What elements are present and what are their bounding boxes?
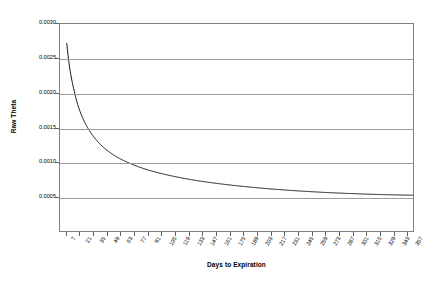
x-axis-tick-mark [230,232,231,236]
x-axis-tick-label: 49 [113,236,121,244]
y-axis-tick-mark [55,197,59,198]
x-axis-tick-label: 343 [401,236,411,247]
y-axis-tick-labels: 0.00300.00250.00200.00150.00100.0005 [16,23,56,232]
x-axis-tick-mark [93,232,94,236]
x-axis-tick-label: 35 [99,236,107,244]
x-axis-tick-label: 21 [86,236,94,244]
x-axis-tick-mark [175,232,176,236]
x-axis-tick-label: 287 [347,236,357,247]
x-axis-tick-label: 301 [360,236,370,247]
x-axis-tick-mark [366,232,367,236]
x-axis-tick-label: 7 [70,236,76,242]
x-axis-tick-mark [161,232,162,236]
x-axis-tick-mark [107,232,108,236]
y-axis-tick-label: 0.0030 [16,20,56,26]
x-axis-tick-mark [394,232,395,236]
x-axis-tick-mark [120,232,121,236]
x-axis-tick-mark [380,232,381,236]
x-axis-tick-label: 119 [183,236,192,247]
x-axis-tick-label: 203 [265,236,275,247]
x-axis-tick-mark [202,232,203,236]
x-axis-tick-label: 217 [278,236,288,247]
series-line-raw-theta [60,24,413,231]
x-axis-tick-mark [271,232,272,236]
y-axis-tick-label: 0.0025 [16,55,56,61]
y-axis-tick-mark [55,162,59,163]
x-axis-tick-mark [216,232,217,236]
y-axis-tick-label: 0.0015 [16,125,56,131]
x-axis-tick-mark [243,232,244,236]
x-axis-tick-mark [407,232,408,236]
x-axis-tick-label: 189 [251,236,261,247]
x-axis-title: Days to Expiration [59,261,414,268]
x-axis-tick-label: 105 [169,236,179,247]
x-axis-tick-label: 273 [333,236,343,247]
x-axis-tick-label: 315 [374,236,384,247]
y-axis-tick-mark [55,93,59,94]
x-axis-tick-mark [257,232,258,236]
plot-area [59,23,414,232]
x-axis-tick-label: 329 [388,236,398,247]
chart-container: Raw Theta 0.00300.00250.00200.00150.0010… [0,0,444,281]
gridline [60,163,413,164]
x-axis-tick-mark [339,232,340,236]
gridline [60,59,413,60]
gridline [60,94,413,95]
x-axis-tick-mark [284,232,285,236]
x-axis-tick-label: 357 [415,236,425,247]
x-axis-tick-label: 77 [140,236,148,244]
x-axis-tick-label: 161 [224,236,234,247]
y-axis-tick-label: 0.0020 [16,90,56,96]
x-axis-tick-mark [148,232,149,236]
y-axis-tick-mark [55,23,59,24]
gridline [60,198,413,199]
x-axis-tick-label: 231 [292,236,302,247]
y-axis-tick-label: 0.0005 [16,194,56,200]
x-axis-tick-mark [79,232,80,236]
x-axis-tick-labels: 7213549637791105119133147161175189203217… [0,236,444,262]
x-axis-tick-label: 133 [196,236,206,247]
x-axis-tick-mark [325,232,326,236]
y-axis-tick-label: 0.0010 [16,160,56,166]
x-axis-tick-mark [134,232,135,236]
x-axis-tick-mark [189,232,190,236]
x-axis-tick-mark [312,232,313,236]
gridline [60,129,413,130]
x-axis-tick-label: 63 [127,236,135,244]
y-axis-tick-mark [55,58,59,59]
x-axis-tick-mark [298,232,299,236]
x-axis-tick-label: 175 [237,236,247,247]
x-axis-tick-mark [353,232,354,236]
x-axis-tick-label: 245 [306,236,316,247]
y-axis-tick-mark [55,128,59,129]
x-axis-tick-label: 259 [319,236,329,247]
x-axis-tick-mark [66,232,67,236]
x-axis-tick-label: 91 [154,236,162,244]
x-axis-tick-label: 147 [210,236,220,247]
